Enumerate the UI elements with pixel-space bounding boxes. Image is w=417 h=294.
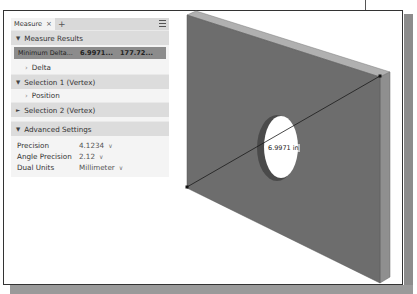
measure-panel: Measure × + ▼ Measure Results Minimum De… bbox=[11, 18, 169, 177]
result-label: Minimum Delta... bbox=[18, 49, 80, 57]
close-icon[interactable]: × bbox=[46, 20, 52, 28]
setting-label: Precision bbox=[17, 141, 79, 150]
chevron-down-icon[interactable]: ∨ bbox=[108, 142, 112, 149]
position-label: Position bbox=[32, 91, 60, 100]
section-label: Advanced Settings bbox=[24, 125, 91, 134]
collapsed-triangle-icon: ► bbox=[16, 107, 20, 113]
setting-precision: Precision 4.1234 ∨ bbox=[11, 140, 169, 151]
chevron-down-icon[interactable]: ∨ bbox=[99, 153, 103, 160]
panel-tab-bar: Measure × + bbox=[11, 18, 169, 30]
chevron-right-icon: › bbox=[25, 92, 28, 100]
result-row-minimum-delta[interactable]: Minimum Delta... 6.9971... 177.72... bbox=[14, 47, 166, 59]
chevron-down-icon[interactable]: ∨ bbox=[119, 164, 123, 171]
spacer bbox=[11, 173, 169, 177]
section-label: Selection 1 (Vertex) bbox=[24, 78, 95, 87]
position-row[interactable]: › Position bbox=[11, 89, 169, 102]
add-tab-icon[interactable]: + bbox=[58, 19, 66, 29]
chevron-right-icon: › bbox=[25, 64, 28, 72]
result-value-distance: 6.9971... bbox=[80, 49, 120, 57]
setting-label: Dual Units bbox=[17, 163, 79, 172]
section-selection-2[interactable]: ► Selection 2 (Vertex) bbox=[11, 102, 169, 117]
vertex-point-2[interactable] bbox=[379, 75, 382, 78]
precision-dropdown[interactable]: 4.1234 bbox=[79, 141, 104, 150]
delta-row[interactable]: › Delta bbox=[11, 61, 169, 74]
dimension-label: 6.9971 in bbox=[267, 144, 300, 152]
delta-label: Delta bbox=[32, 63, 51, 72]
hamburger-menu-icon[interactable] bbox=[159, 20, 166, 27]
setting-label: Angle Precision bbox=[17, 152, 79, 161]
expanded-triangle-icon: ▼ bbox=[16, 79, 20, 85]
expanded-triangle-icon: ▼ bbox=[16, 35, 20, 41]
tab-measure[interactable]: Measure × bbox=[11, 18, 55, 30]
plate-side-face[interactable] bbox=[380, 72, 390, 283]
section-selection-1[interactable]: ▼ Selection 1 (Vertex) bbox=[11, 74, 169, 89]
dual-units-dropdown[interactable]: Millimeter bbox=[79, 163, 115, 172]
setting-dual-units: Dual Units Millimeter ∨ bbox=[11, 162, 169, 173]
expanded-triangle-icon: ▼ bbox=[16, 126, 20, 132]
vertex-point-1[interactable] bbox=[186, 186, 189, 189]
result-value-secondary: 177.72... bbox=[120, 49, 153, 57]
section-measure-results[interactable]: ▼ Measure Results bbox=[11, 30, 169, 45]
section-label: Measure Results bbox=[24, 34, 83, 43]
section-label: Selection 2 (Vertex) bbox=[24, 106, 95, 115]
angle-precision-dropdown[interactable]: 2.12 bbox=[79, 152, 95, 161]
tab-label: Measure bbox=[14, 20, 42, 28]
section-advanced-settings[interactable]: ▼ Advanced Settings bbox=[11, 121, 169, 136]
setting-angle-precision: Angle Precision 2.12 ∨ bbox=[11, 151, 169, 162]
